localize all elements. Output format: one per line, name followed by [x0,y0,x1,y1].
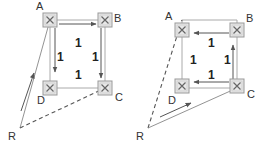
node-label-a: A [165,10,173,22]
link-r-c [148,88,237,128]
node-label-b: B [246,12,253,24]
network-diagram: 1 1 1 1 A B D C R 1 1 1 1 [0,0,265,145]
switch-icon-c [230,79,244,93]
node-label-r: R [8,130,16,142]
cost-c-b: 1 [224,53,231,67]
cost-a-d: 1 [190,53,197,67]
switch-icon-a [43,13,57,27]
node-label-b: B [114,12,121,24]
cost-b-c: 1 [92,50,99,64]
switch-icon-d [175,79,189,93]
node-label-d: D [37,94,45,106]
cost-a-d: 1 [57,50,64,64]
left-diagram: 1 1 1 1 A B D C R [8,0,123,142]
switch-icon-c [98,81,112,95]
node-label-c: C [115,91,123,103]
right-diagram: 1 1 1 1 A B D C R [136,10,255,142]
cost-d-c: 1 [75,68,82,82]
switch-icon-b [98,13,112,27]
cost-a-b: 1 [75,36,82,50]
switch-icon-a [175,23,189,37]
cost-c-d: 1 [208,68,215,82]
cost-a-b: 1 [208,36,215,50]
link-r-a [20,20,50,128]
node-label-r: R [136,130,144,142]
node-label-a: A [36,0,44,12]
node-label-c: C [247,88,255,100]
node-label-d: D [168,94,176,106]
switch-icon-d [43,81,57,95]
arrow-r-a [21,73,34,111]
switch-icon-b [230,23,244,37]
dashed-link-r-c [20,88,105,128]
